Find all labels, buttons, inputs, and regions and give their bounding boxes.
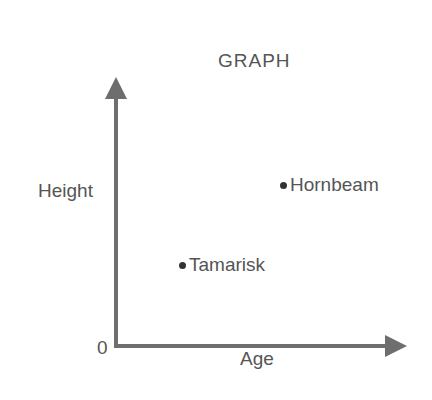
y-axis-label: Height [38, 180, 93, 202]
origin-label: 0 [97, 337, 108, 359]
y-axis-arrow-icon [105, 77, 127, 99]
data-point-tamarisk: Tamarisk [179, 254, 265, 276]
x-axis-label: Age [240, 348, 274, 370]
point-label: Tamarisk [189, 254, 265, 276]
data-point-hornbeam: Hornbeam [280, 174, 379, 196]
x-axis-arrow-icon [385, 335, 407, 357]
point-marker-icon [280, 182, 287, 189]
point-marker-icon [179, 262, 186, 269]
point-label: Hornbeam [290, 174, 379, 196]
